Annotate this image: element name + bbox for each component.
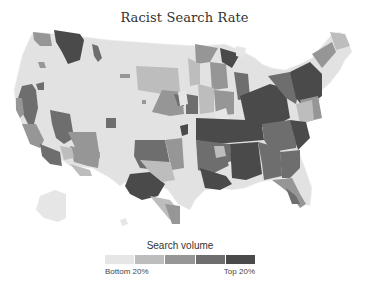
hawaii-shape [120,218,128,226]
legend-low-label: Bottom 20% [105,267,149,276]
map-title: Racist Search Rate [0,10,369,25]
legend-bin-1 [105,255,134,264]
alaska-shape [36,190,66,222]
legend-bin-3 [165,255,194,264]
legend-bin-2 [135,255,164,264]
legend-bin-5 [226,255,255,264]
legend-title: Search volume [105,240,255,251]
legend-bin-4 [196,255,225,264]
legend-high-label: Top 20% [224,267,255,276]
legend-labels: Bottom 20% Top 20% [105,267,255,276]
legend-color-scale [105,255,255,264]
legend: Search volume Bottom 20% Top 20% [105,240,255,276]
choropleth-map [0,28,369,233]
